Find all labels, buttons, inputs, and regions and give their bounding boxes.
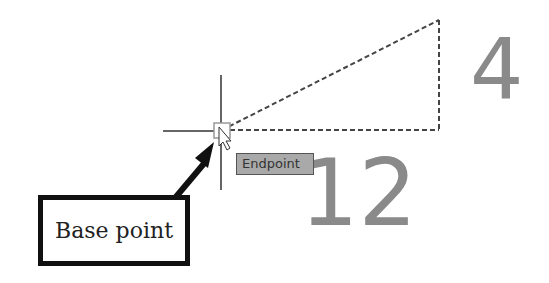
rubberband-triangle <box>222 20 439 130</box>
dimension-label-12: 12 <box>300 140 417 247</box>
hypotenuse-line <box>222 20 439 130</box>
crosshair-cursor <box>163 75 221 190</box>
drawing-canvas[interactable]: 4 12 Endpoint Base point <box>0 0 549 283</box>
callout-label: Base point <box>55 218 173 243</box>
base-point-callout: Base point <box>38 195 190 266</box>
dimension-label-4: 4 <box>470 20 523 118</box>
snap-tooltip: Endpoint <box>236 153 314 175</box>
callout-arrow <box>175 142 214 198</box>
